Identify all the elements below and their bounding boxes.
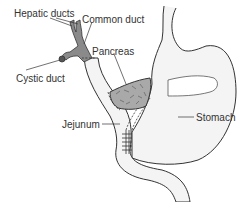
diagram-drawing [0,0,247,202]
label-common-duct: Common duct [82,14,144,25]
label-stomach: Stomach [196,112,235,123]
anatomy-diagram: Hepatic ducts Common duct Cystic duct Pa… [0,0,247,202]
pancreas-shape [108,78,151,110]
label-jejunum: Jejunum [62,119,100,130]
label-hepatic-ducts: Hepatic ducts [14,8,75,19]
label-cystic-duct: Cystic duct [16,73,65,84]
label-pancreas: Pancreas [92,46,134,57]
